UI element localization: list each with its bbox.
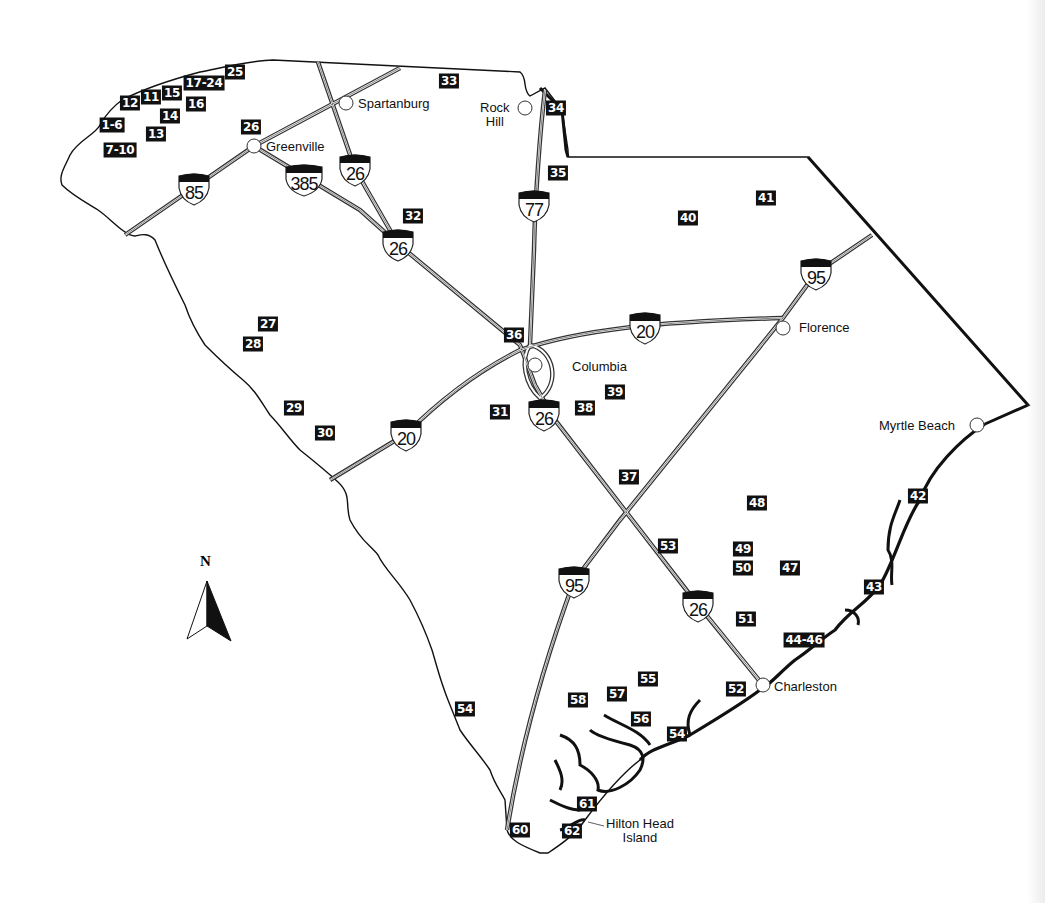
- site-marker-30[interactable]: 30: [315, 426, 335, 441]
- site-marker-7-10[interactable]: 7-10: [104, 143, 137, 158]
- interstate-shield-77[interactable]: 77: [517, 187, 551, 223]
- site-marker-56[interactable]: 56: [631, 712, 651, 727]
- site-marker-49[interactable]: 49: [733, 542, 753, 557]
- site-marker-37[interactable]: 37: [619, 470, 639, 485]
- site-marker-33[interactable]: 33: [439, 74, 459, 89]
- site-marker-41[interactable]: 41: [756, 191, 776, 206]
- site-marker-44-46[interactable]: 44-46: [784, 633, 825, 648]
- site-marker-16[interactable]: 16: [186, 97, 206, 112]
- site-marker-55[interactable]: 55: [638, 672, 658, 687]
- site-marker-47[interactable]: 47: [780, 561, 800, 576]
- site-marker-62[interactable]: 62: [562, 824, 582, 839]
- city-dot-florence[interactable]: [776, 321, 791, 336]
- interstate-number: 77: [517, 200, 551, 220]
- north-label: N: [200, 553, 211, 570]
- interstate-number: 26: [527, 409, 561, 429]
- site-marker-1-6[interactable]: 1-6: [100, 118, 125, 133]
- site-marker-28[interactable]: 28: [243, 337, 263, 352]
- interstate-number: 20: [628, 322, 662, 342]
- site-marker-31[interactable]: 31: [490, 405, 510, 420]
- site-marker-61[interactable]: 61: [577, 797, 597, 812]
- city-label-hilton-head-line1: Hilton Head: [606, 817, 674, 831]
- site-marker-39[interactable]: 39: [605, 385, 625, 400]
- site-marker-34[interactable]: 34: [546, 101, 566, 116]
- site-marker-29[interactable]: 29: [284, 401, 304, 416]
- city-label-rock-hill: Rock Hill: [480, 101, 510, 129]
- site-marker-58[interactable]: 58: [568, 693, 588, 708]
- city-dot-myrtle-beach[interactable]: [970, 418, 985, 433]
- city-dot-columbia[interactable]: [528, 358, 543, 373]
- city-label-hilton-head-line2: Island: [606, 831, 674, 845]
- site-marker-25[interactable]: 25: [225, 65, 245, 80]
- city-label-spartanburg: Spartanburg: [358, 97, 430, 111]
- site-marker-35[interactable]: 35: [548, 166, 568, 181]
- city-dot-greenville[interactable]: [247, 139, 262, 154]
- interstate-number: 95: [799, 268, 833, 288]
- interstate-shield-95[interactable]: 95: [799, 255, 833, 291]
- interstate-number: 385: [284, 174, 324, 194]
- site-marker-36[interactable]: 36: [504, 328, 524, 343]
- city-label-myrtle-beach: Myrtle Beach: [879, 419, 955, 433]
- site-marker-52[interactable]: 52: [726, 682, 746, 697]
- interstate-shield-26[interactable]: 26: [527, 396, 561, 432]
- city-label-rock-hill-line2: Hill: [480, 115, 510, 129]
- site-marker-26[interactable]: 26: [241, 120, 261, 135]
- city-dot-charleston[interactable]: [756, 678, 771, 693]
- interstate-number: 26: [338, 164, 372, 184]
- site-marker-50[interactable]: 50: [733, 561, 753, 576]
- interstate-number: 95: [557, 576, 591, 596]
- north-arrow-icon: [185, 571, 235, 661]
- site-marker-27[interactable]: 27: [258, 317, 278, 332]
- site-marker-40[interactable]: 40: [678, 211, 698, 226]
- site-marker-43[interactable]: 43: [864, 580, 884, 595]
- site-marker-14[interactable]: 14: [160, 109, 180, 124]
- interstate-shield-85[interactable]: 85: [177, 170, 211, 206]
- interstate-number: 26: [381, 239, 415, 259]
- interstate-shield-385[interactable]: 385: [284, 161, 324, 197]
- page-edge-shadow: [1027, 0, 1045, 903]
- interstate-shield-95[interactable]: 95: [557, 563, 591, 599]
- site-marker-54[interactable]: 54: [667, 727, 687, 742]
- south-carolina-map: Spartanburg Rock Hill Greenville Florenc…: [0, 0, 1045, 903]
- site-marker-13[interactable]: 13: [146, 127, 166, 142]
- site-marker-11[interactable]: 11: [141, 90, 161, 105]
- interstate-shield-26[interactable]: 26: [681, 587, 715, 623]
- city-label-rock-hill-line1: Rock: [480, 101, 510, 115]
- interstate-number: 85: [177, 183, 211, 203]
- site-marker-54[interactable]: 54: [455, 702, 475, 717]
- site-marker-57[interactable]: 57: [607, 687, 627, 702]
- north-arrow: N: [185, 553, 235, 643]
- site-marker-38[interactable]: 38: [575, 401, 595, 416]
- city-dot-spartanburg[interactable]: [339, 96, 354, 111]
- city-dot-rock-hill[interactable]: [518, 101, 533, 116]
- city-label-florence: Florence: [799, 321, 850, 335]
- city-label-charleston: Charleston: [774, 680, 837, 694]
- site-marker-53[interactable]: 53: [658, 539, 678, 554]
- site-marker-32[interactable]: 32: [403, 209, 423, 224]
- interstate-shield-26[interactable]: 26: [381, 226, 415, 262]
- interstate-shield-26[interactable]: 26: [338, 151, 372, 187]
- interstate-shield-20[interactable]: 20: [628, 309, 662, 345]
- site-marker-15[interactable]: 15: [162, 86, 182, 101]
- site-marker-17-24[interactable]: 17-24: [184, 76, 225, 91]
- site-marker-12[interactable]: 12: [120, 96, 140, 111]
- site-marker-48[interactable]: 48: [747, 496, 767, 511]
- interstate-shield-20[interactable]: 20: [389, 416, 423, 452]
- site-marker-60[interactable]: 60: [510, 823, 530, 838]
- interstate-number: 20: [389, 429, 423, 449]
- site-marker-51[interactable]: 51: [736, 612, 756, 627]
- city-label-greenville: Greenville: [266, 140, 325, 154]
- interstate-number: 26: [681, 600, 715, 620]
- city-label-columbia: Columbia: [572, 360, 627, 374]
- site-marker-42[interactable]: 42: [908, 489, 928, 504]
- city-label-hilton-head: Hilton Head Island: [606, 817, 674, 845]
